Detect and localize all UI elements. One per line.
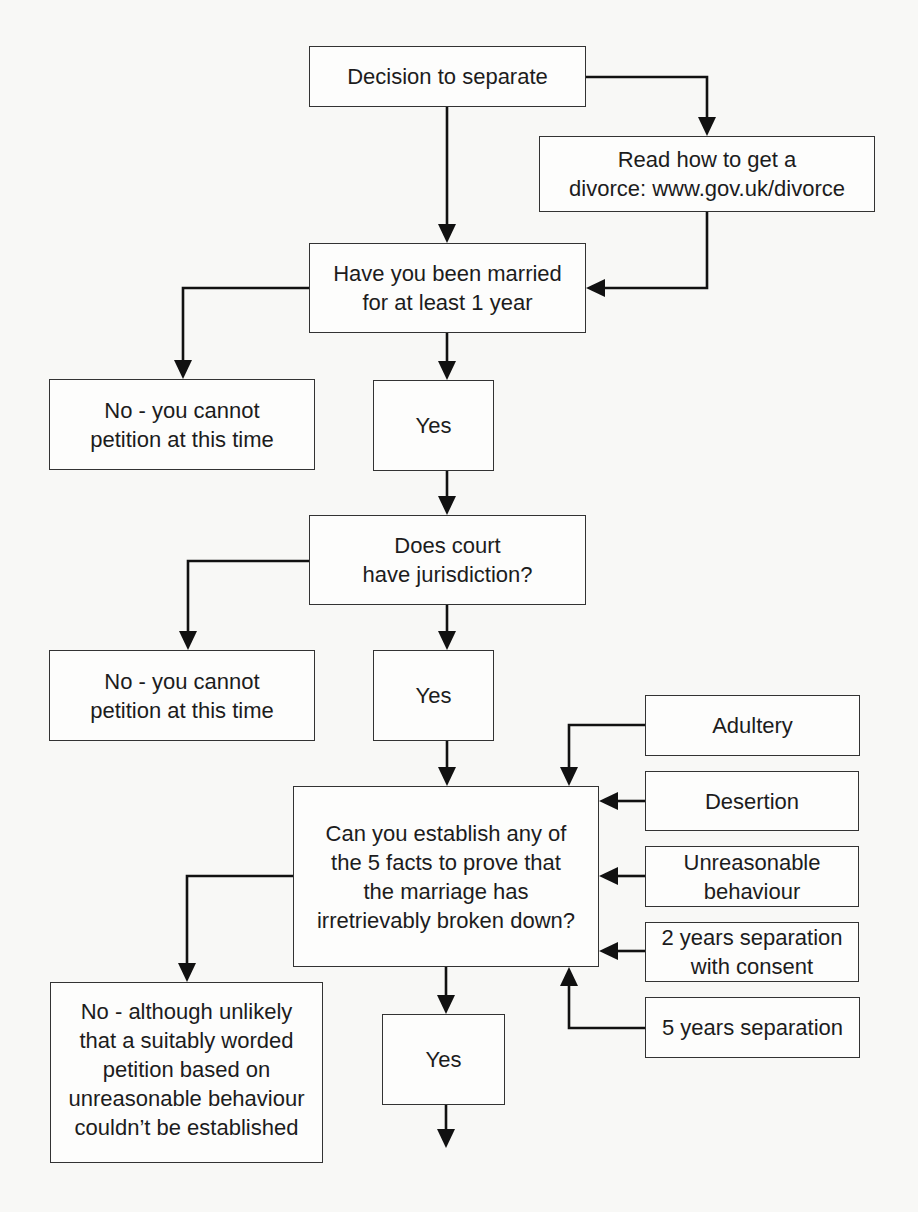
node-fact-two-years-separation: 2 years separation with consent — [645, 922, 859, 982]
node-fact-adultery: Adultery — [645, 695, 860, 756]
node-no-although-unlikely: No - although unlikely that a suitably w… — [50, 982, 323, 1163]
node-yes-3: Yes — [382, 1014, 505, 1105]
edge-desertion-facts — [599, 792, 645, 810]
cropped-header-text — [0, 0, 918, 10]
edge-sep2-facts — [599, 942, 645, 960]
edge-unreasonable-facts — [599, 867, 645, 885]
edge-married-no1 — [174, 288, 309, 379]
node-fact-desertion: Desertion — [645, 771, 859, 831]
node-read-how-to-divorce: Read how to get a divorce: www.gov.uk/di… — [539, 136, 875, 212]
edge-yes1-court — [438, 471, 456, 515]
node-five-facts-question: Can you establish any of the 5 facts to … — [293, 786, 599, 967]
edge-married-yes1 — [438, 333, 456, 380]
node-decision-to-separate: Decision to separate — [309, 46, 586, 107]
flowchart-canvas: Decision to separate Read how to get a d… — [0, 0, 918, 1212]
edge-sep5-facts — [560, 967, 645, 1028]
node-yes-1: Yes — [373, 380, 494, 471]
node-yes-2: Yes — [373, 650, 494, 741]
node-fact-unreasonable-behaviour: Unreasonable behaviour — [645, 846, 859, 907]
node-fact-five-years-separation: 5 years separation — [645, 997, 860, 1058]
edge-read-married — [586, 212, 707, 297]
edge-start-read — [586, 77, 716, 136]
edge-facts-yes3 — [437, 967, 455, 1014]
node-no-cannot-petition-2: No - you cannot petition at this time — [49, 650, 315, 741]
node-no-cannot-petition-1: No - you cannot petition at this time — [49, 379, 315, 470]
edge-yes3-continues — [437, 1105, 455, 1148]
edge-facts-no3 — [178, 876, 293, 982]
edge-court-yes2 — [438, 605, 456, 650]
edge-yes2-facts — [438, 741, 456, 786]
edge-adultery-facts — [560, 725, 645, 786]
edge-court-no2 — [179, 561, 309, 650]
node-married-one-year-question: Have you been married for at least 1 yea… — [309, 243, 586, 333]
node-court-jurisdiction-question: Does court have jurisdiction? — [309, 515, 586, 605]
edge-start-married — [438, 107, 456, 243]
